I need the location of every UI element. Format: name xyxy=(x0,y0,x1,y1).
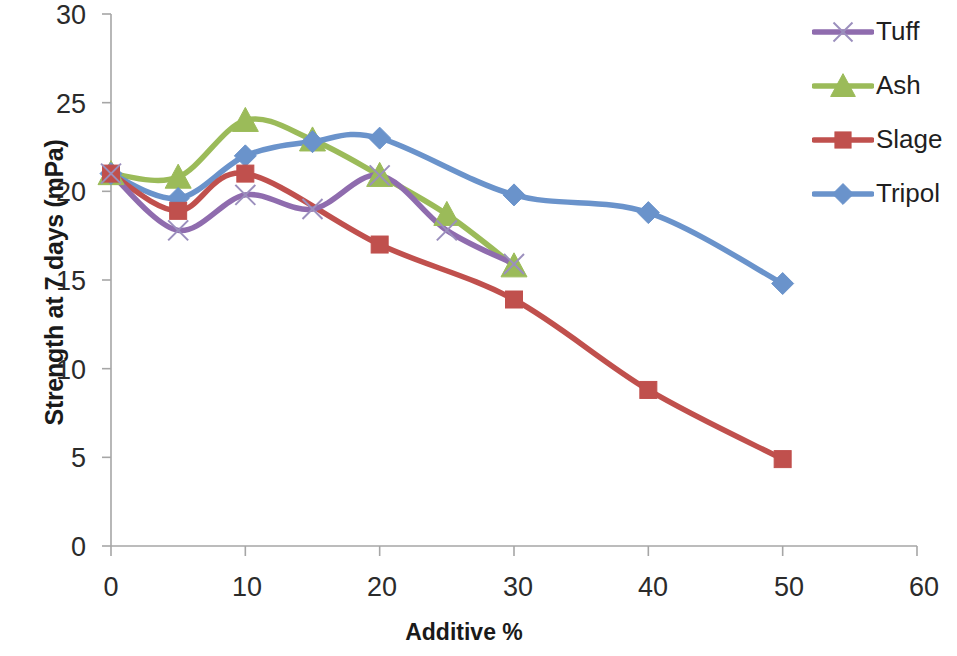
y-tick-label-25: 25 xyxy=(30,89,86,120)
legend-entry-ash[interactable]: Ash xyxy=(812,58,957,112)
x-tick-label-50: 50 xyxy=(759,572,819,603)
legend-swatch-ash-triangle-icon xyxy=(812,65,874,105)
line-chart: Strength at 7 days (mPa) Additive % 30 2… xyxy=(0,0,957,656)
chart-legend: Tuff Ash Slage Tripol xyxy=(812,4,957,220)
y-tick-label-15: 15 xyxy=(30,266,86,297)
legend-entry-tripol[interactable]: Tripol xyxy=(812,166,957,220)
x-tick-label-10: 10 xyxy=(217,572,277,603)
y-tick-label-0: 0 xyxy=(30,532,86,563)
legend-label-tripol: Tripol xyxy=(876,180,940,206)
x-tick-label-60: 60 xyxy=(894,572,954,603)
y-tick-label-20: 20 xyxy=(30,177,86,208)
y-tick-label-10: 10 xyxy=(30,355,86,386)
y-tick-label-5: 5 xyxy=(30,443,86,474)
x-tick-label-40: 40 xyxy=(623,572,683,603)
x-tick-label-30: 30 xyxy=(488,572,548,603)
legend-entry-tuff[interactable]: Tuff xyxy=(812,4,957,58)
legend-label-ash: Ash xyxy=(876,72,921,98)
legend-swatch-slage-square-icon xyxy=(812,119,874,159)
y-tick-label-30: 30 xyxy=(30,0,86,31)
x-tick-label-20: 20 xyxy=(352,572,412,603)
legend-label-slage: Slage xyxy=(876,126,943,152)
legend-swatch-tuff-x-icon xyxy=(812,11,874,51)
x-tick-label-0: 0 xyxy=(81,572,141,603)
legend-swatch-tripol-diamond-icon xyxy=(812,173,874,213)
legend-entry-slage[interactable]: Slage xyxy=(812,112,957,166)
legend-label-tuff: Tuff xyxy=(876,18,919,44)
